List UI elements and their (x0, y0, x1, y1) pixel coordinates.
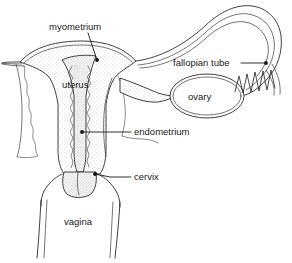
vagina-right-wall-inner (110, 202, 113, 258)
label-cervix-text: cervix (134, 171, 159, 182)
left-fallopian-tube-stub-mid (2, 64, 22, 65)
label-fallopian-tube-text: fallopian tube (173, 57, 230, 68)
left-fallopian-tube-stub-upper (2, 62, 20, 63)
vagina-left-wall-inner (44, 200, 47, 258)
cervix-body (63, 172, 97, 198)
left-wall-outer (16, 64, 22, 157)
left-cut-edge (18, 66, 38, 158)
label-myometrium-text: myometrium (49, 21, 101, 32)
vagina-group (37, 200, 120, 258)
label-endometrium-dot (80, 130, 84, 134)
label-endometrium-text: endometrium (134, 126, 190, 137)
label-vagina: vagina (64, 216, 93, 227)
vagina-right-wall-outer (115, 202, 120, 258)
anatomy-illustration: myometrium uterus fallopian tube ovary e… (0, 0, 292, 263)
label-uterus-text: uterus (62, 79, 89, 90)
label-cervix: cervix (93, 171, 159, 182)
label-ovary: ovary (188, 91, 211, 102)
vagina-left-wall-outer (37, 200, 41, 258)
label-ovary-text: ovary (188, 91, 211, 102)
label-cervix-dot (93, 172, 97, 176)
label-cervix-leader (95, 174, 131, 177)
label-fallopian-tube: fallopian tube (173, 57, 268, 68)
label-myometrium-dot (95, 58, 99, 62)
fallopian-tube-lumen-line (140, 22, 268, 76)
cervix-group (41, 172, 120, 207)
broad-ligament (120, 78, 176, 102)
right-fornix (98, 174, 120, 207)
anatomy-diagram: myometrium uterus fallopian tube ovary e… (0, 0, 292, 263)
label-uterus: uterus (62, 79, 89, 90)
label-vagina-text: vagina (64, 216, 93, 227)
label-fallopian-tube-dot (264, 61, 268, 65)
left-fornix (41, 174, 62, 206)
